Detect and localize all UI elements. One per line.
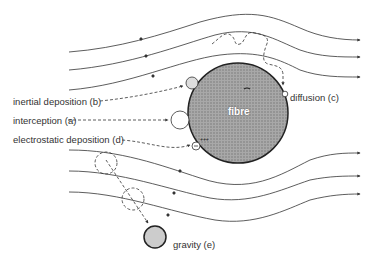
diffusion-particle xyxy=(282,91,288,97)
svg-text:+++: +++ xyxy=(200,136,209,142)
diffusion-label: diffusion (c) xyxy=(290,93,339,103)
gravity-particle xyxy=(144,226,166,248)
inertial-deposition-label: inertial deposition (b) xyxy=(13,97,101,107)
diagram-canvas: +++ xyxy=(0,0,374,260)
fibre-label: fibre xyxy=(228,106,250,117)
inertial-particle xyxy=(186,77,198,89)
interception-label: interception (a) xyxy=(13,116,76,126)
interception-particle xyxy=(171,111,189,129)
gravity-label: gravity (e) xyxy=(173,240,215,250)
electrostatic-deposition-label: electrostatic deposition (d) xyxy=(13,135,124,145)
lower-streamlines xyxy=(69,150,360,221)
